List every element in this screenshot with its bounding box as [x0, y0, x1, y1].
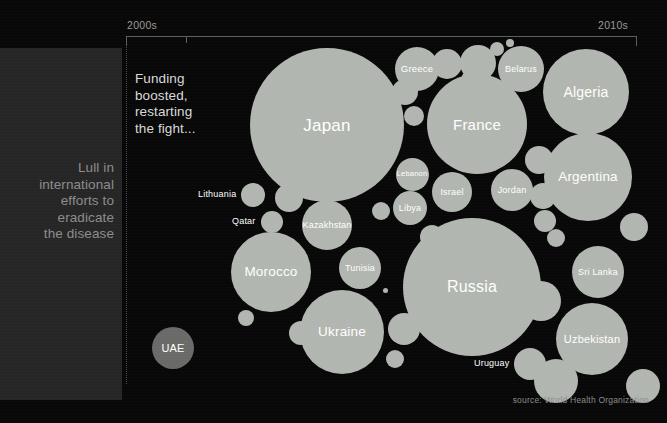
bubble-label: Algeria: [564, 85, 609, 99]
bubble-unlabeled[interactable]: [386, 350, 404, 368]
timeline-axis-bracket: [126, 36, 637, 46]
bubble-label: Greece: [401, 64, 433, 74]
bubble-unlabeled[interactable]: [462, 73, 470, 81]
bubble-morocco[interactable]: Morocco: [231, 232, 311, 312]
bubble-kazakhstan[interactable]: Kazakhstan: [302, 200, 352, 250]
bubble-external-label: Uruguay: [474, 358, 509, 368]
bubble-israel[interactable]: Israel: [432, 172, 472, 212]
bubble-qatar[interactable]: [261, 211, 283, 233]
bubble-label: Israel: [440, 188, 463, 197]
bubble-libya[interactable]: Libya: [393, 191, 427, 225]
bubble-unlabeled[interactable]: [547, 229, 565, 247]
timeline-axis-tick: [186, 36, 187, 43]
bubble-unlabeled[interactable]: [388, 313, 420, 345]
bubble-label: Tunisia: [345, 264, 375, 273]
bubble-unlabeled[interactable]: [404, 106, 424, 126]
bubble-external-label: Qatar: [232, 216, 256, 226]
bubble-unlabeled[interactable]: [275, 184, 303, 212]
bubble-label: Uzbekistan: [564, 334, 620, 345]
bubble-unlabeled[interactable]: [386, 127, 398, 139]
bubble-unlabeled[interactable]: [521, 281, 561, 321]
bubble-lithuania[interactable]: [241, 183, 265, 207]
infographic-canvas: Lull in international efforts to eradica…: [0, 0, 667, 423]
bubble-uae[interactable]: UAE: [152, 327, 194, 369]
bubble-unlabeled[interactable]: [238, 310, 254, 326]
bubble-chart-layer: UAEJapanFranceRussiaAlgeriaArgentinaUkra…: [0, 0, 667, 423]
bubble-label: France: [453, 117, 501, 132]
bubble-unlabeled[interactable]: [530, 183, 556, 209]
bubble-label: Japan: [303, 117, 350, 134]
bubble-label: Argentina: [558, 170, 618, 184]
bubble-belarus[interactable]: Belarus: [498, 46, 544, 92]
axis-label-2010s: 2010s: [598, 19, 628, 31]
bubble-argentina[interactable]: Argentina: [544, 133, 632, 221]
bubble-tunisia[interactable]: Tunisia: [339, 247, 381, 289]
bubble-label: Ukraine: [318, 325, 366, 339]
bubble-external-label: Lithuania: [198, 189, 236, 199]
bubble-label: UAE: [161, 343, 184, 354]
bubble-label: Belarus: [505, 65, 537, 74]
bubble-algeria[interactable]: Algeria: [543, 49, 629, 135]
bubble-unlabeled[interactable]: [289, 321, 313, 345]
source-credit: source: World Health Organization: [513, 395, 649, 405]
bubble-unlabeled[interactable]: [620, 213, 648, 241]
bubble-unlabeled[interactable]: [372, 202, 390, 220]
bubble-label: Jordan: [498, 186, 527, 195]
bubble-label: Libya: [399, 204, 422, 213]
bubble-label: Morocco: [244, 265, 297, 279]
bubble-sri-lanka[interactable]: Sri Lanka: [572, 246, 624, 298]
bubble-japan[interactable]: Japan: [250, 48, 404, 202]
bubble-label: Russia: [447, 279, 497, 295]
bubble-label: Sri Lanka: [578, 268, 618, 277]
axis-label-2000s: 2000s: [127, 19, 157, 31]
bubble-unlabeled[interactable]: [432, 49, 462, 79]
bubble-label: Lebanon: [397, 170, 428, 178]
bubble-lebanon[interactable]: Lebanon: [396, 158, 429, 191]
bubble-label: Kazakhstan: [302, 221, 351, 230]
bubble-unlabeled[interactable]: [383, 288, 388, 293]
bubble-jordan[interactable]: Jordan: [491, 169, 533, 211]
bubble-unlabeled[interactable]: [525, 146, 553, 174]
funding-annotation: Funding boosted, restarting the fight...: [135, 71, 239, 137]
bubble-unlabeled[interactable]: [392, 79, 418, 105]
bubble-unlabeled[interactable]: [420, 225, 444, 249]
